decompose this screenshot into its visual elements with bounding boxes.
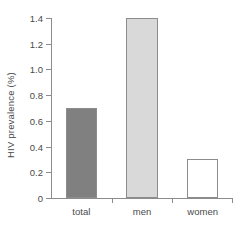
chart-figure: HIV prevalence (%) 00.20.40.60.81.01.21.…	[0, 0, 239, 230]
x-tick-mark	[112, 198, 113, 203]
y-tick-mark	[46, 18, 51, 19]
y-tick-label: 1.2	[30, 38, 43, 49]
bar-total	[66, 108, 98, 198]
x-tick-mark	[232, 198, 233, 203]
y-tick-mark	[46, 198, 51, 199]
y-tick-label: 1.4	[30, 13, 43, 24]
x-tick-mark	[172, 198, 173, 203]
x-axis-line	[51, 198, 233, 199]
y-tick-label: 0.6	[30, 115, 43, 126]
bar-women	[187, 159, 219, 198]
y-tick-mark	[46, 95, 51, 96]
y-tick-mark	[46, 172, 51, 173]
y-axis-title: HIV prevalence (%)	[0, 0, 20, 230]
y-tick-label: 0.8	[30, 90, 43, 101]
y-tick-mark	[46, 44, 51, 45]
y-tick-label: 0.2	[30, 167, 43, 178]
x-category-label-total: total	[72, 206, 90, 217]
y-tick-mark	[46, 69, 51, 70]
y-tick-label: 0.4	[30, 141, 43, 152]
x-category-label-women: women	[187, 206, 218, 217]
bar-men	[126, 18, 158, 198]
y-tick-label: 1.0	[30, 64, 43, 75]
plot-area: 00.20.40.60.81.01.21.4 totalmenwomen	[51, 18, 233, 198]
y-axis-line	[51, 18, 52, 198]
y-tick-mark	[46, 121, 51, 122]
x-category-label-men: men	[133, 206, 151, 217]
y-tick-mark	[46, 147, 51, 148]
y-tick-label: 0	[38, 193, 43, 204]
